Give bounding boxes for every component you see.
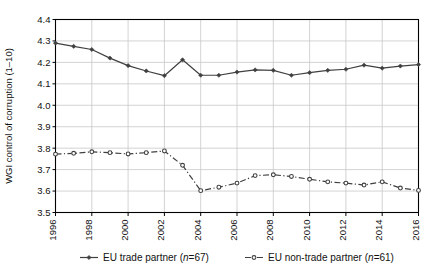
data-point-marker <box>54 152 58 156</box>
x-tick-label: 2000 <box>119 220 130 241</box>
x-tick-label: 2008 <box>264 220 275 241</box>
x-tick-label: 2016 <box>410 220 421 241</box>
chart-figure: 3.53.63.73.83.94.04.14.24.34.4 199619982… <box>0 0 432 277</box>
data-point-marker <box>271 173 275 177</box>
y-tick-label: 4.1 <box>37 78 50 89</box>
y-tick-label: 3.9 <box>37 121 50 132</box>
data-point-marker <box>144 151 148 155</box>
y-tick-label: 4.4 <box>37 14 50 25</box>
x-axis-tick-labels: 1996199820002002200420062008201020122014… <box>47 220 421 241</box>
chart-legend: EU trade partner (n=67)EU non-trade part… <box>80 252 394 263</box>
data-point-marker <box>417 189 421 193</box>
data-point-marker <box>398 186 402 190</box>
x-tick-label: 2002 <box>155 220 166 241</box>
x-tick-label: 1998 <box>83 220 94 241</box>
data-point-marker <box>235 181 239 185</box>
y-tick-label: 3.7 <box>37 164 50 175</box>
data-point-marker <box>290 175 294 179</box>
y-tick-label: 3.8 <box>37 143 50 154</box>
legend-label-2: EU non-trade partner (n=61) <box>268 252 394 263</box>
legend-label-1: EU trade partner (n=67) <box>103 252 209 263</box>
data-point-marker <box>199 189 203 193</box>
x-tick-label: 1996 <box>47 220 58 241</box>
y-tick-label: 3.5 <box>37 207 50 218</box>
data-point-marker <box>326 180 330 184</box>
data-point-marker <box>362 183 366 187</box>
data-point-marker <box>217 185 221 189</box>
data-point-marker <box>90 150 94 154</box>
legend-marker-1 <box>87 255 91 259</box>
y-tick-label: 4.0 <box>37 100 50 111</box>
data-point-marker <box>253 174 257 178</box>
legend-item-1[interactable]: EU trade partner (n=67) <box>80 252 209 263</box>
data-point-marker <box>344 181 348 185</box>
legend-item-2[interactable]: EU non-trade partner (n=61) <box>245 252 394 263</box>
data-point-marker <box>126 152 130 156</box>
data-point-marker <box>108 151 112 155</box>
data-point-marker <box>308 177 312 181</box>
data-point-marker <box>181 163 185 167</box>
y-tick-label: 4.2 <box>37 57 50 68</box>
y-axis-title-text: WGI control of corruption (1–10) <box>3 48 14 184</box>
x-tick-label: 2014 <box>373 220 384 241</box>
x-tick-label: 2004 <box>192 220 203 241</box>
x-tick-label: 2006 <box>228 220 239 241</box>
data-point-marker <box>380 180 384 184</box>
line-chart: 3.53.63.73.83.94.04.14.24.34.4 199619982… <box>0 0 432 277</box>
y-tick-label: 3.6 <box>37 185 50 196</box>
x-tick-label: 2010 <box>301 220 312 241</box>
data-point-marker <box>163 149 167 153</box>
data-point-marker <box>72 151 76 155</box>
legend-marker-2 <box>252 256 256 260</box>
x-tick-label: 2012 <box>337 220 348 241</box>
y-tick-label: 4.3 <box>37 35 50 46</box>
y-axis-title: WGI control of corruption (1–10) <box>3 48 14 184</box>
y-axis-tick-labels: 3.53.63.73.83.94.04.14.24.34.4 <box>37 14 55 218</box>
